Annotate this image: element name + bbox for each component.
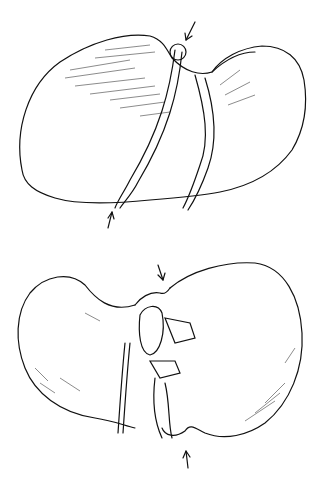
liver-superior-view [0,0,326,243]
liver-inferior-view [0,243,326,486]
